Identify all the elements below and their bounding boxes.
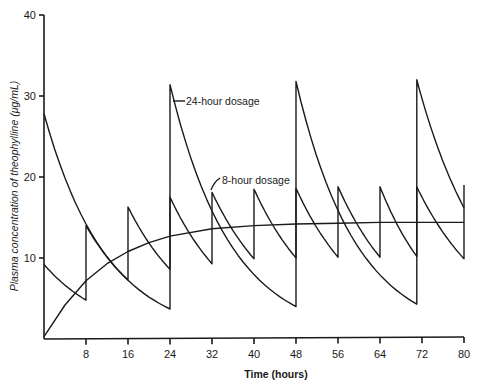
y-tick-label: 10 xyxy=(24,252,36,264)
x-tick-label: 8 xyxy=(83,348,89,360)
y-tick-label: 40 xyxy=(24,9,36,21)
y-axis-title: Plasma concentration of theophylline (μg… xyxy=(8,81,20,292)
x-tick-label: 40 xyxy=(248,348,260,360)
x-tick-label: 80 xyxy=(458,348,470,360)
y-tick-label: 30 xyxy=(24,90,36,102)
x-tick-label: 56 xyxy=(332,348,344,360)
plot-curves xyxy=(44,80,464,337)
x-tick-label: 72 xyxy=(416,348,428,360)
x-axis-title: Time (hours) xyxy=(244,368,307,380)
series-8-hour-dosage xyxy=(44,185,464,300)
annotation-24-hour-dosage: 24-hour dosage xyxy=(186,95,260,107)
x-tick-label: 24 xyxy=(164,348,176,360)
x-tick-label: 48 xyxy=(290,348,302,360)
annotation-leader-8h xyxy=(211,178,220,190)
theophylline-concentration-chart: 102030408162432404856647280 24-hour dosa… xyxy=(0,0,477,383)
y-tick-label: 20 xyxy=(24,171,36,183)
annotations: 24-hour dosage8-hour dosage xyxy=(173,95,290,190)
x-tick-label: 32 xyxy=(206,348,218,360)
x-tick-label: 16 xyxy=(122,348,134,360)
x-tick-label: 64 xyxy=(374,348,386,360)
annotation-8-hour-dosage: 8-hour dosage xyxy=(222,174,290,186)
